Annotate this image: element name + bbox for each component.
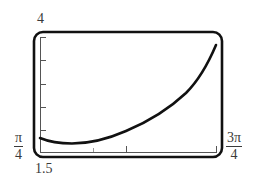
- x-min-denominator: 4: [15, 147, 22, 162]
- function-curve: [40, 45, 216, 144]
- x-min-numerator: π: [14, 131, 23, 147]
- x-max-numerator: 3π: [226, 131, 242, 147]
- y-min-label: 1.5: [35, 162, 53, 176]
- y-max-label: 4: [37, 12, 44, 26]
- window-frame: [34, 32, 222, 157]
- x-max-label: 3π 4: [226, 131, 242, 162]
- x-ticks: [94, 146, 217, 152]
- x-min-label: π 4: [14, 131, 23, 162]
- graph-window: [0, 0, 255, 181]
- x-max-denominator: 4: [231, 147, 238, 162]
